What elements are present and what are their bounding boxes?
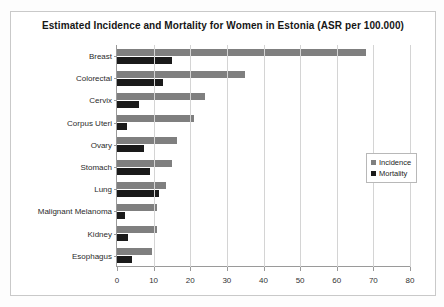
y-axis-category-label: Esophagus bbox=[72, 251, 112, 260]
bar-incidence bbox=[117, 137, 177, 144]
gridline bbox=[264, 45, 265, 267]
bar-incidence bbox=[117, 182, 166, 189]
x-axis-tick bbox=[300, 267, 301, 271]
x-axis-tick-label: 0 bbox=[115, 276, 119, 285]
x-axis-tick-label: 30 bbox=[222, 276, 231, 285]
x-axis-tick bbox=[410, 267, 411, 271]
bar-incidence bbox=[117, 226, 157, 233]
x-axis-tick bbox=[264, 267, 265, 271]
y-axis-category-label: Colorectal bbox=[76, 74, 112, 83]
legend-swatch-icon bbox=[371, 160, 376, 165]
y-axis-category-label: Ovary bbox=[91, 140, 112, 149]
bar-mortality bbox=[117, 212, 125, 219]
legend-label: Incidence bbox=[379, 157, 411, 168]
legend-label: Mortality bbox=[379, 168, 407, 179]
bar-mortality bbox=[117, 234, 128, 241]
bar-incidence bbox=[117, 115, 194, 122]
x-axis-tick-label: 10 bbox=[149, 276, 158, 285]
legend-item-mortality: Mortality bbox=[371, 168, 411, 179]
x-axis-tick bbox=[117, 267, 118, 271]
gridline bbox=[190, 45, 191, 267]
chart-title: Estimated Incidence and Mortality for Wo… bbox=[11, 20, 435, 31]
legend-swatch-icon bbox=[371, 171, 376, 176]
bar-mortality bbox=[117, 145, 144, 152]
y-axis-category-label: Corpus Uteri bbox=[67, 118, 112, 127]
x-axis-tick-label: 20 bbox=[186, 276, 195, 285]
bar-incidence bbox=[117, 160, 172, 167]
bar-mortality bbox=[117, 168, 150, 175]
gridline bbox=[337, 45, 338, 267]
y-axis-category-label: Kidney bbox=[88, 229, 112, 238]
x-axis-tick bbox=[337, 267, 338, 271]
bar-mortality bbox=[117, 101, 139, 108]
bar-incidence bbox=[117, 204, 157, 211]
gridline bbox=[227, 45, 228, 267]
y-axis-category-label: Cervix bbox=[89, 96, 112, 105]
gridline bbox=[154, 45, 155, 267]
y-axis-category-label: Lung bbox=[94, 185, 112, 194]
bar-mortality bbox=[117, 123, 127, 130]
x-axis-tick-label: 70 bbox=[369, 276, 378, 285]
bar-incidence bbox=[117, 93, 205, 100]
x-axis-tick bbox=[154, 267, 155, 271]
x-axis-tick bbox=[227, 267, 228, 271]
chart-frame: Estimated Incidence and Mortality for Wo… bbox=[10, 11, 436, 296]
x-axis-tick bbox=[373, 267, 374, 271]
y-axis-category-label: Breast bbox=[89, 52, 112, 61]
x-axis-tick-label: 80 bbox=[406, 276, 415, 285]
chart-legend: Incidence Mortality bbox=[366, 153, 417, 183]
bar-mortality bbox=[117, 57, 172, 64]
gridline bbox=[300, 45, 301, 267]
bar-incidence bbox=[117, 248, 152, 255]
legend-item-incidence: Incidence bbox=[371, 157, 411, 168]
bar-mortality bbox=[117, 256, 132, 263]
x-axis-tick-label: 40 bbox=[259, 276, 268, 285]
x-axis-tick-label: 60 bbox=[332, 276, 341, 285]
bar-mortality bbox=[117, 79, 163, 86]
chart-page: Estimated Incidence and Mortality for Wo… bbox=[0, 0, 444, 307]
x-axis-tick-label: 50 bbox=[296, 276, 305, 285]
x-axis-tick bbox=[190, 267, 191, 271]
y-axis-category-label: Stomach bbox=[80, 163, 112, 172]
y-axis-category-label: Malignant Melanoma bbox=[38, 207, 112, 216]
